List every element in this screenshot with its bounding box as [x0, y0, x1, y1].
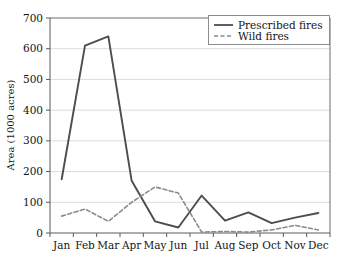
x-tick-label-may: May	[144, 239, 167, 251]
fire-area-line-chart: 0100200300400500600700 JanFebMarAprMayJu…	[0, 0, 348, 271]
x-tick-label-nov: Nov	[284, 239, 306, 251]
x-tick-label-sep: Sep	[238, 239, 258, 251]
x-tick-label-jul: Jul	[193, 239, 209, 251]
y-tick-label-300: 300	[23, 134, 43, 146]
x-tick-label-mar: Mar	[97, 239, 120, 251]
chart-legend: Prescribed fires Wild fires	[209, 16, 330, 45]
x-tick-label-oct: Oct	[262, 239, 281, 251]
y-tick-label-0: 0	[36, 227, 43, 239]
chart-canvas: 0100200300400500600700 JanFebMarAprMayJu…	[0, 0, 348, 271]
y-tick-label-700: 700	[23, 12, 43, 24]
x-tick-label-jan: Jan	[52, 239, 70, 251]
x-tick-label-dec: Dec	[308, 239, 329, 251]
y-tick-label-600: 600	[23, 42, 43, 54]
legend-label-wild-fires: Wild fires	[238, 30, 289, 42]
y-axis-title: Area (1000 acres)	[5, 79, 16, 171]
x-tick-label-aug: Aug	[213, 239, 235, 251]
x-tick-label-apr: Apr	[121, 239, 142, 251]
x-tick-label-jun: Jun	[168, 239, 187, 251]
y-tick-label-500: 500	[23, 73, 43, 85]
x-tick-label-feb: Feb	[75, 239, 95, 251]
y-tick-label-400: 400	[23, 104, 43, 116]
y-tick-label-200: 200	[23, 165, 43, 177]
y-tick-label-100: 100	[23, 196, 43, 208]
